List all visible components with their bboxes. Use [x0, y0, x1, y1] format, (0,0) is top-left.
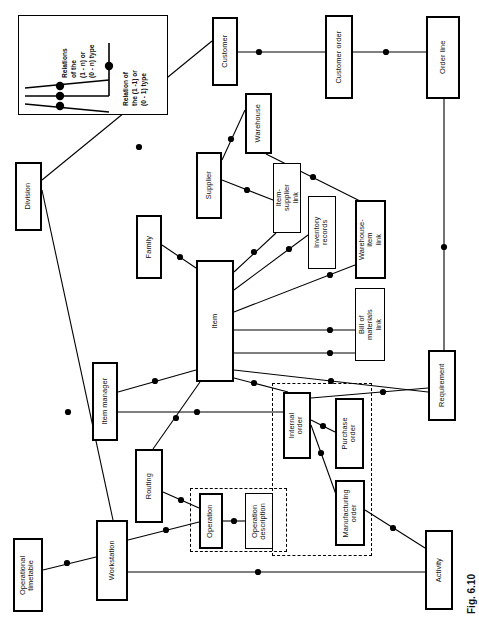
legend-one-label-3: (0 - 1) type [140, 73, 148, 106]
entity-purchase_order[interactable]: Purchaseorder [335, 398, 364, 469]
relation-dot [255, 569, 261, 575]
entity-label-line: link [375, 219, 383, 260]
entity-item[interactable]: Item [196, 260, 234, 382]
entity-label: Operationdescription [251, 503, 268, 540]
entity-item_supplier_link[interactable]: Item-supplierlink [273, 163, 301, 233]
entity-label: Internalorder [289, 413, 306, 438]
entity-label-line: description [259, 503, 267, 540]
entity-label-line: link [291, 185, 299, 212]
entity-manufacturing_order[interactable]: Manufacturingorder [335, 480, 365, 546]
entity-label: Family [145, 236, 153, 258]
entity-label: Activity [435, 558, 443, 582]
entity-label: Operation [207, 504, 215, 537]
relation-dot [256, 49, 262, 55]
entity-warehouse_item_link[interactable]: Warehouse-itemlink [355, 200, 386, 279]
legend-one-label: Relation of [122, 72, 130, 106]
relation-dot [380, 389, 386, 395]
entity-label: Routing [145, 473, 153, 499]
legend-box: Relations of the (1 - n) or (0 - n) type… [18, 15, 168, 115]
entity-label: Supplier [205, 172, 213, 200]
entity-routing[interactable]: Routing [135, 449, 163, 523]
relation-dot [390, 525, 396, 531]
figure-canvas: CustomerCustomer orderOrder lineWarehous… [0, 0, 479, 620]
entity-label-line: Warehouse-item [358, 219, 375, 260]
entity-operational_timetable[interactable]: Operationaltimetable [13, 538, 43, 612]
relation-dot [64, 560, 70, 566]
entity-label-line: timetable [28, 555, 36, 594]
relation-dot [178, 497, 184, 503]
entity-activity[interactable]: Activity [425, 530, 453, 610]
relation-dot [383, 49, 389, 55]
relation-dot [173, 415, 179, 421]
relation-dot [327, 350, 333, 356]
relation-dot [136, 144, 142, 150]
entity-label: Bill ofmaterials link [357, 309, 382, 340]
entity-label-line: records [322, 217, 330, 248]
entity-label: Purchaseorder [341, 417, 358, 449]
entity-bill_of_materials[interactable]: Bill ofmaterials link [355, 288, 385, 361]
entity-internal_order[interactable]: Internalorder [283, 392, 311, 459]
entity-label: Item-supplierlink [274, 185, 299, 212]
relation-dot [152, 378, 158, 384]
entity-operation_desc[interactable]: Operationdescription [245, 493, 273, 549]
relation-line [234, 235, 308, 290]
entity-label: Operationaltimetable [20, 555, 37, 594]
entity-customer_order[interactable]: Customer order [325, 15, 353, 99]
entity-label-line: Item-supplier [274, 185, 291, 212]
entity-supplier[interactable]: Supplier [196, 152, 222, 219]
entity-label: Workstation [108, 541, 116, 581]
relation-dot [327, 272, 333, 278]
legend-one-label-2: the (1 -1) or [131, 70, 139, 106]
entity-label: Customer order [335, 31, 343, 84]
relation-line [42, 190, 113, 520]
entity-label-line: order [350, 417, 358, 449]
entity-label-line: order [350, 489, 358, 537]
relation-dot [251, 249, 257, 255]
entity-workstation[interactable]: Workstation [96, 520, 128, 601]
relation-dot [251, 380, 257, 386]
entity-label-line: materials link [366, 309, 383, 340]
legend-many-label-3: (1 - n) or [79, 52, 87, 78]
entity-warehouse[interactable]: Warehouse [245, 93, 272, 154]
relation-dot [65, 409, 71, 415]
relation-dot [286, 246, 292, 252]
entity-family[interactable]: Family [136, 215, 162, 279]
relation-line [222, 110, 245, 160]
entity-label: Manufacturingorder [342, 489, 359, 537]
relation-dot [194, 409, 200, 415]
entity-inventory_records[interactable]: Inventoryrecords [308, 196, 336, 269]
legend-many-label-4: (0 - n) type [88, 45, 96, 78]
entity-label: Item [211, 314, 219, 329]
entity-label-line: order [297, 413, 305, 438]
relation-line [234, 265, 355, 312]
relation-dot [327, 327, 333, 333]
relation-dot [310, 174, 316, 180]
entity-order_line[interactable]: Order line [426, 16, 460, 99]
relation-dot [244, 187, 250, 193]
entity-label: Order line [439, 41, 447, 74]
entity-label: Inventoryrecords [314, 217, 331, 248]
entity-label: Customer [221, 35, 229, 68]
entity-item_manager[interactable]: Item manager [92, 362, 118, 441]
relation-dot [177, 254, 183, 260]
relation-dot [441, 244, 447, 250]
entity-operation[interactable]: Operation [199, 493, 223, 549]
entity-label: Warehouse-itemlink [358, 219, 383, 260]
entity-requirement[interactable]: Requirement [428, 350, 456, 421]
entity-label: Requirement [438, 364, 446, 407]
entity-label: Item manager [101, 378, 109, 425]
entity-label: Division [24, 183, 32, 210]
entity-label: Warehouse [254, 104, 262, 142]
relation-dot [228, 136, 234, 142]
relation-dot [163, 527, 169, 533]
legend-many-label-2: of the [70, 60, 78, 78]
entity-customer[interactable]: Customer [212, 17, 238, 86]
figure-caption: Fig. 6.10 [466, 574, 477, 614]
entity-division[interactable]: Division [15, 162, 42, 231]
legend-many-label: Relations [61, 48, 69, 78]
